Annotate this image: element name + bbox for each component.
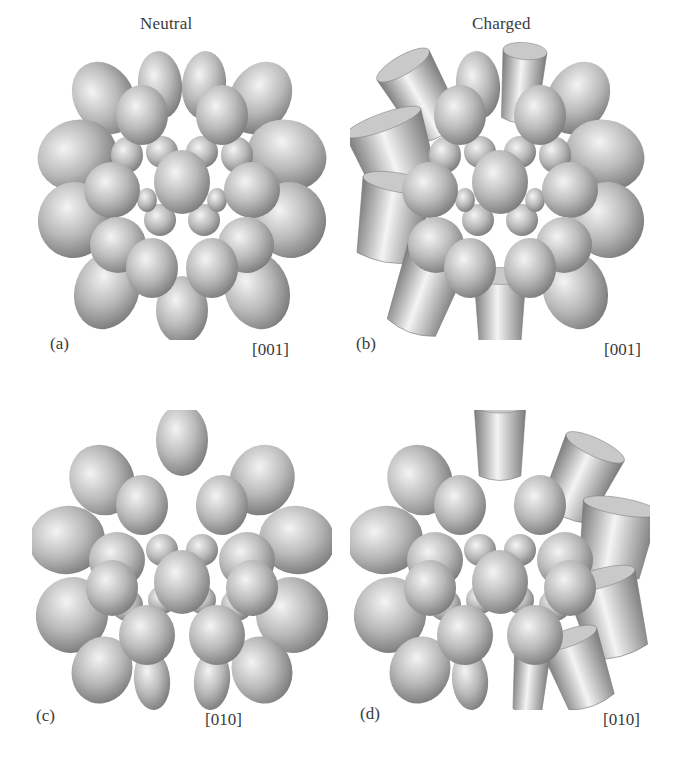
panel-letter-c: (c) (36, 706, 55, 726)
panel-direction-c: [010] (205, 710, 242, 730)
column-title-charged: Charged (472, 14, 531, 34)
panel-direction-b: [001] (604, 340, 641, 360)
panel-a-neutral-001 (32, 40, 332, 340)
panel-direction-d: [010] (603, 710, 640, 730)
column-title-neutral: Neutral (140, 14, 192, 34)
panel-letter-b: (b) (356, 334, 376, 354)
panel-d-charged-010 (350, 410, 650, 710)
panel-b-charged-001 (350, 40, 650, 340)
panel-letter-d: (d) (360, 704, 380, 724)
panel-direction-a: [001] (252, 340, 289, 360)
panel-c-neutral-010 (32, 410, 332, 710)
panel-letter-a: (a) (50, 334, 69, 354)
